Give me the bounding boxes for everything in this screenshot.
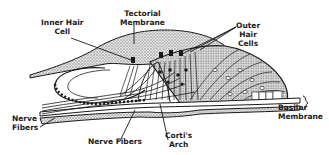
label-outer-hair-cells-line3: Cells bbox=[236, 39, 260, 48]
label-tectorial-membrane: Tectorial Membrane bbox=[120, 9, 165, 27]
label-basilar-membrane: Basilar Membrane bbox=[278, 103, 323, 121]
organ-of-corti-diagram: Inner Hair Cell Tectorial Membrane Outer… bbox=[0, 0, 329, 155]
label-basilar-membrane-line2: Membrane bbox=[278, 112, 323, 121]
label-cortis-arch-line1: Corti's bbox=[165, 131, 192, 140]
label-outer-hair-cells-line1: Outer bbox=[236, 21, 260, 30]
basilar-membrane-shape bbox=[40, 96, 308, 124]
label-outer-hair-cells-line2: Hair bbox=[236, 30, 260, 39]
label-cortis-arch-line2: Arch bbox=[165, 140, 192, 149]
label-nerve-fibers-bottom-line1: Nerve Fibers bbox=[88, 137, 142, 146]
label-nerve-fibers-left: Nerve Fibers bbox=[12, 114, 38, 132]
label-inner-hair-cell: Inner Hair Cell bbox=[41, 18, 83, 36]
label-inner-hair-cell-line2: Cell bbox=[41, 27, 83, 36]
label-tectorial-membrane-line2: Membrane bbox=[120, 18, 165, 27]
label-nerve-fibers-left-line1: Nerve bbox=[12, 114, 38, 123]
label-outer-hair-cells: Outer Hair Cells bbox=[236, 21, 260, 48]
label-nerve-fibers-left-line2: Fibers bbox=[12, 123, 38, 132]
label-tectorial-membrane-line1: Tectorial bbox=[120, 9, 165, 18]
label-inner-hair-cell-line1: Inner Hair bbox=[41, 18, 83, 27]
label-cortis-arch: Corti's Arch bbox=[165, 131, 192, 149]
label-basilar-membrane-line1: Basilar bbox=[278, 103, 323, 112]
label-nerve-fibers-bottom: Nerve Fibers bbox=[88, 137, 142, 146]
